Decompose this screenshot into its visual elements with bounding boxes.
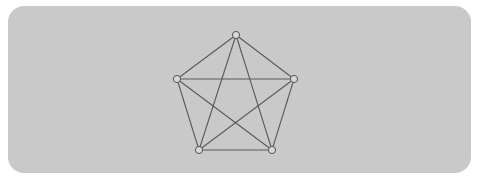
edge-top-bottom-right [236, 35, 272, 150]
edge-right-bottom-right [272, 79, 294, 150]
node-top [232, 31, 239, 38]
edge-top-left [177, 35, 236, 79]
graph-canvas [0, 0, 477, 178]
node-left [173, 75, 180, 82]
edge-left-bottom-right [177, 79, 272, 150]
node-bottom-right [268, 146, 275, 153]
edges-group [177, 35, 294, 150]
node-right [290, 75, 297, 82]
edge-left-bottom-left [177, 79, 199, 150]
nodes-group [173, 31, 297, 153]
edge-top-bottom-left [199, 35, 236, 150]
edge-right-bottom-left [199, 79, 294, 150]
edge-top-right [236, 35, 294, 79]
node-bottom-left [195, 146, 202, 153]
